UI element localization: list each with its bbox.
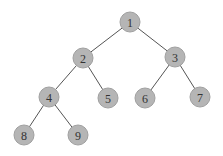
node-label: 3: [172, 51, 178, 65]
tree-node-4: 4: [39, 87, 59, 107]
tree-node-2: 2: [73, 48, 93, 68]
tree-node-6: 6: [135, 88, 155, 108]
node-label: 2: [80, 52, 86, 66]
tree-node-3: 3: [165, 47, 185, 67]
node-label: 9: [75, 129, 81, 143]
tree-nodes: 123456789: [14, 12, 210, 145]
node-label: 6: [142, 92, 148, 106]
node-label: 4: [46, 91, 52, 105]
tree-edges: [24, 22, 200, 135]
node-label: 7: [197, 91, 203, 105]
tree-node-5: 5: [98, 88, 118, 108]
node-label: 5: [105, 92, 111, 106]
node-label: 1: [127, 16, 133, 30]
node-label: 8: [21, 129, 27, 143]
tree-node-7: 7: [190, 87, 210, 107]
tree-node-8: 8: [14, 125, 34, 145]
binary-tree-diagram: 123456789: [0, 0, 223, 156]
tree-node-9: 9: [68, 125, 88, 145]
tree-node-1: 1: [120, 12, 140, 32]
